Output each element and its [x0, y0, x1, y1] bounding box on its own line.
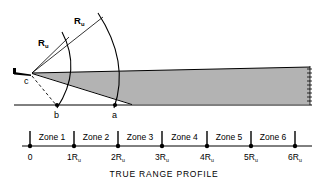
true-range-profile-figure: Ru Ru c b a Zone 1 Zone 2 Zone 3 Zone 4 … — [0, 0, 328, 184]
tick-label-5ru: 5Ru — [237, 153, 265, 162]
point-label-b: b — [54, 111, 59, 120]
zone-label-3: Zone 3 — [118, 133, 162, 142]
zone-label-4: Zone 4 — [162, 133, 207, 142]
figure-caption: TRUE RANGE PROFILE — [0, 170, 328, 179]
point-label-a: a — [112, 111, 117, 120]
tick-label-4ru: 4Ru — [193, 153, 221, 162]
radius-label-inner: Ru — [38, 38, 48, 48]
tick-label-1ru: 1Ru — [60, 153, 88, 162]
marker-point-a — [113, 103, 117, 107]
tick-label-0: 0 — [16, 153, 44, 162]
tick-label-6ru: 6Ru — [281, 153, 309, 162]
tick-label-2ru: 2Ru — [104, 153, 132, 162]
radius-label-outer: Ru — [74, 16, 84, 26]
zone-label-6: Zone 6 — [251, 133, 295, 142]
radar-antenna-icon — [13, 68, 31, 76]
range-arc-inner — [57, 32, 71, 108]
point-label-c: c — [24, 77, 29, 86]
zone-label-1: Zone 1 — [30, 133, 74, 142]
tick-label-3ru: 3Ru — [148, 153, 176, 162]
zone-label-2: Zone 2 — [74, 133, 118, 142]
marker-point-b — [55, 103, 59, 107]
zone-label-5: Zone 5 — [207, 133, 251, 142]
